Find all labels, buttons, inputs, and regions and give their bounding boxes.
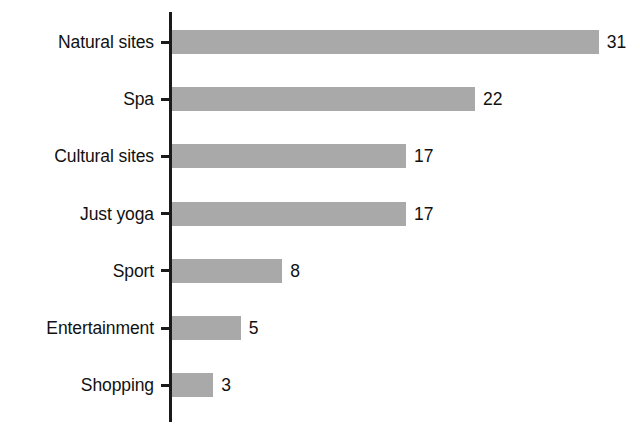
bar-value-label: 31 (607, 29, 626, 55)
bar-row: Shopping3 (0, 372, 640, 398)
category-label: Sport (113, 258, 154, 284)
bar (172, 316, 241, 340)
bar-value-label: 17 (414, 143, 433, 169)
category-label: Shopping (81, 372, 154, 398)
tick-mark-icon (161, 269, 170, 272)
bar-row: Natural sites31 (0, 29, 640, 55)
bar-value-label: 3 (221, 372, 231, 398)
bar (172, 87, 475, 111)
category-label: Just yoga (80, 201, 154, 227)
tick-mark-icon (161, 327, 170, 330)
bar-row: Cultural sites17 (0, 143, 640, 169)
bar (172, 259, 282, 283)
tick-mark-icon (161, 98, 170, 101)
category-label: Natural sites (58, 29, 154, 55)
bar-value-label: 17 (414, 201, 433, 227)
bar-row: Just yoga17 (0, 201, 640, 227)
bar-chart: Natural sites31Spa22Cultural sites17Just… (0, 0, 640, 436)
bar-row: Spa22 (0, 86, 640, 112)
tick-mark-icon (161, 41, 170, 44)
bar-row: Sport8 (0, 258, 640, 284)
category-label: Entertainment (46, 315, 154, 341)
bar (172, 144, 406, 168)
bar (172, 30, 599, 54)
category-label: Spa (123, 86, 154, 112)
bar-value-label: 22 (483, 86, 502, 112)
category-label: Cultural sites (54, 143, 154, 169)
bar-value-label: 8 (290, 258, 300, 284)
tick-mark-icon (161, 212, 170, 215)
bar-row: Entertainment5 (0, 315, 640, 341)
bar-value-label: 5 (249, 315, 259, 341)
tick-mark-icon (161, 384, 170, 387)
bar (172, 373, 213, 397)
tick-mark-icon (161, 155, 170, 158)
bar (172, 202, 406, 226)
